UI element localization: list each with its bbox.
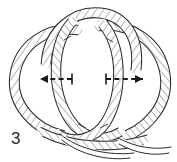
knot-illustration-figure: 3: [0, 0, 177, 162]
step-number-label: 3: [11, 129, 20, 148]
knot-drawing: [0, 0, 177, 162]
